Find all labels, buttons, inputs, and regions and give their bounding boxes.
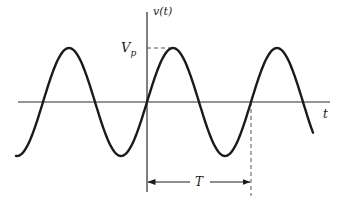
peak-voltage-subscript: p xyxy=(130,48,136,58)
period-label: T xyxy=(195,175,204,189)
peak-voltage-label: Vp xyxy=(121,40,136,58)
sinusoid-diagram: v(t) Vp t T xyxy=(0,0,344,206)
y-axis-label: v(t) xyxy=(153,5,172,18)
x-axis-label: t xyxy=(323,107,328,121)
